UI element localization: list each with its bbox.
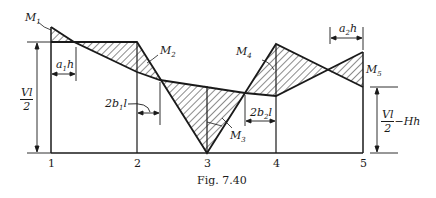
label-M3: M3: [230, 130, 246, 144]
moment-diagram: [0, 0, 436, 198]
label-2b2l: 2b2l: [250, 107, 272, 121]
label-left-height: Vl 2: [20, 87, 33, 112]
station-label-4: 4: [273, 158, 280, 169]
station-label-5: 5: [360, 158, 367, 169]
label-a1h: a1h: [56, 59, 74, 73]
label-M5: M5: [366, 64, 382, 78]
label-M1: M1: [25, 12, 41, 26]
label-right-height: Vl 2 −Hh: [381, 109, 420, 134]
station-label-3: 3: [204, 158, 211, 169]
station-label-1: 1: [48, 158, 55, 169]
2b1l-dimension: [128, 82, 160, 125]
label-M4: M4: [236, 46, 252, 60]
label-a2h: a2h: [339, 23, 357, 37]
label-M2: M2: [160, 45, 176, 59]
station-label-2: 2: [134, 158, 141, 169]
label-2b1l: 2b1l: [105, 98, 127, 112]
figure-caption: Fig. 7.40: [197, 175, 247, 186]
